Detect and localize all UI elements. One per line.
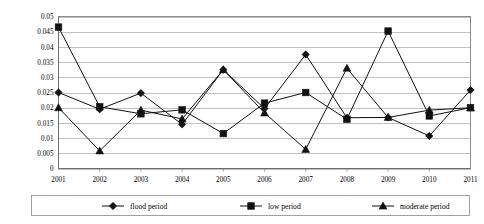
- data-point-marker: [96, 103, 103, 110]
- legend: flood periodlow periodmoderate period: [102, 202, 450, 211]
- x-axis-tick-label: 2007: [299, 176, 314, 184]
- data-series: [55, 24, 475, 154]
- y-axis-tick-label: 0.005: [37, 150, 54, 158]
- legend-label: moderate period: [400, 202, 450, 211]
- legend-label: flood period: [130, 202, 168, 211]
- x-axis-tick-label: 2001: [51, 176, 66, 184]
- x-axis-tick-label: 2010: [422, 176, 437, 184]
- data-point-marker: [55, 24, 62, 31]
- y-axis-tick-label: 0.05: [41, 13, 54, 21]
- gridlines: [59, 18, 471, 170]
- x-axis-tick-label: 2004: [175, 176, 190, 184]
- data-point-marker: [344, 116, 351, 123]
- legend-label: low period: [268, 202, 301, 211]
- data-point-marker: [55, 89, 62, 96]
- y-axis-tick-label: 0.035: [37, 59, 54, 67]
- y-axis-tick-label: 0.04: [41, 44, 54, 52]
- x-axis-tick-labels: 2001200220032004200520062007200820092010…: [51, 176, 478, 184]
- series-line: [59, 27, 471, 133]
- data-point-marker: [426, 113, 433, 120]
- x-axis-tick-label: 2002: [93, 176, 108, 184]
- x-axis-tick-label: 2005: [216, 176, 231, 184]
- y-axis-tick-label: 0.03: [41, 74, 54, 82]
- line-chart: 00.0050.010.0150.020.0250.030.0350.040.0…: [0, 0, 484, 224]
- legend-marker-square-icon: [248, 203, 255, 210]
- series-low-period: [55, 24, 474, 137]
- data-point-marker: [343, 64, 351, 71]
- series-flood-period: [55, 51, 474, 140]
- chart-container: 00.0050.010.0150.020.0250.030.0350.040.0…: [0, 0, 484, 224]
- data-point-marker: [220, 130, 227, 137]
- x-axis-tick-label: 2006: [257, 176, 272, 184]
- y-axis-tick-label: 0.045: [37, 28, 54, 36]
- data-point-marker: [385, 28, 392, 35]
- data-point-marker: [137, 106, 145, 113]
- data-point-marker: [179, 107, 186, 114]
- legend-marker-diamond-icon: [109, 202, 116, 209]
- y-axis-tick-label: 0.01: [41, 135, 54, 143]
- y-axis-tick-labels: 00.0050.010.0150.020.0250.030.0350.040.0…: [37, 13, 54, 173]
- y-axis-tick-label: 0.02: [41, 104, 54, 112]
- x-axis-tick-label: 2008: [340, 176, 355, 184]
- x-axis-tick-label: 2011: [463, 176, 478, 184]
- y-axis-tick-label: 0.025: [37, 89, 54, 97]
- x-axis-tick-label: 2009: [381, 176, 396, 184]
- data-point-marker: [261, 100, 268, 107]
- data-point-marker: [55, 104, 63, 111]
- y-axis-tick-label: 0.015: [37, 120, 54, 128]
- y-axis-tick-label: 0: [50, 165, 54, 173]
- data-point-marker: [302, 89, 309, 96]
- plot-area-border: [59, 17, 471, 169]
- x-axis-tick-label: 2003: [134, 176, 149, 184]
